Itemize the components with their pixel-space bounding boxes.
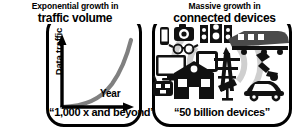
smartphone-icon <box>160 27 169 45</box>
device-icons-svg <box>152 17 292 109</box>
speaker-left-icon <box>200 25 208 43</box>
device-icon-cluster <box>152 17 292 109</box>
camera-icon <box>174 24 194 41</box>
chart-labels: Data traffic Year <box>46 18 142 118</box>
speaker-center-icon <box>210 21 222 43</box>
x-axis-label: Year <box>100 88 120 99</box>
figure-root: “1,000 x and beyond” Data traffic Year “… <box>0 0 299 140</box>
y-axis-label: Data traffic <box>53 22 64 82</box>
car-icon <box>244 81 284 101</box>
security-camera-icon <box>218 79 237 101</box>
